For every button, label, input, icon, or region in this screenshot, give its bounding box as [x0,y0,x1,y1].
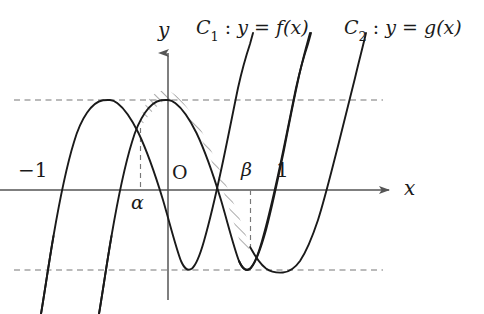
y-axis-label: y [158,20,169,40]
curve-c2-colon: : [367,16,385,38]
origin-label: O [172,163,188,182]
figure-canvas [0,0,484,314]
alpha-label: α [131,193,144,212]
curve-c1-name: C [196,16,211,38]
curve-c2-gx [41,33,253,314]
curve-c1-equation: y = f(x) [237,16,308,38]
curve-c2-name: C [344,16,359,38]
curve-c2-label: C2 : y = g(x) [344,18,462,42]
curve-c2-right-branch [250,33,366,273]
curve-c1-right-branch [239,33,310,270]
x-tick-label-negative-one: −1 [18,160,47,180]
curve-c2-equation: y = g(x) [385,16,461,38]
x-tick-label-one: 1 [276,160,289,180]
x-axis-label: x [404,178,415,198]
curve-c2-subscript: 2 [359,29,367,44]
curve-c1-colon: : [219,16,237,38]
beta-label: β [241,160,252,179]
curve-c1-subscript: 1 [211,29,219,44]
hatch-fill-region [140,90,250,250]
curve-c1-left-tail [99,236,112,314]
math-figure: C1 : y = f(x) C2 : y = g(x) y x O α β −1… [0,0,484,314]
curve-c1-label: C1 : y = f(x) [196,18,309,42]
curve-c2-left-tail [41,236,54,314]
